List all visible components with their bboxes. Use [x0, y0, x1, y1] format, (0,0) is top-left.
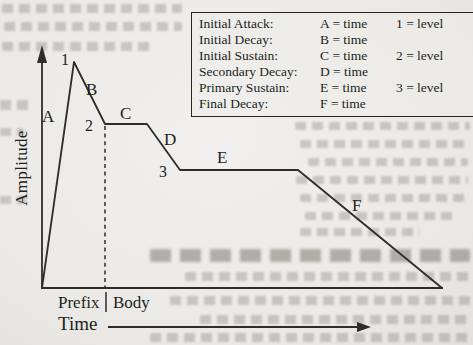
legend-stage-name: Primary Sustain: — [199, 80, 320, 96]
x-axis-label: Time — [58, 313, 97, 335]
final-decay-segment-label: F — [352, 196, 361, 216]
prefix-region-label: Prefix — [58, 293, 100, 313]
attack-segment-label: A — [42, 107, 54, 127]
scanned-book-page: 1 A B 2 C D 3 E F Amplitude Prefix Body … — [0, 0, 473, 345]
level-1-label: 1 — [61, 51, 69, 69]
initial-sustain-segment-label: C — [120, 104, 131, 124]
legend-stage-name: Initial Decay: — [199, 32, 320, 48]
legend-level-param: 3 = level — [396, 80, 469, 96]
legend-row: Final Decay: F = time — [199, 96, 469, 112]
legend-stage-name: Initial Attack: — [199, 16, 320, 32]
legend-stage-name: Final Decay: — [199, 96, 320, 112]
legend-time-param: B = time — [320, 32, 396, 48]
legend-row: Secondary Decay: D = time — [199, 64, 469, 80]
time-axis-arrowhead-icon — [357, 322, 371, 332]
legend-level-param: 1 = level — [396, 16, 469, 32]
legend-time-param: C = time — [320, 48, 396, 64]
level-2-label: 2 — [85, 117, 93, 135]
envelope-legend-box: Initial Attack: A = time 1 = level Initi… — [191, 12, 473, 117]
legend-stage-name: Initial Sustain: — [199, 48, 320, 64]
legend-row: Initial Sustain: C = time 2 = level — [199, 48, 469, 64]
legend-level-param: 2 = level — [396, 48, 469, 64]
initial-decay-segment-label: B — [86, 80, 97, 100]
legend-row: Initial Attack: A = time 1 = level — [199, 16, 469, 32]
primary-sustain-segment-label: E — [217, 148, 227, 168]
body-region-label: Body — [113, 293, 150, 313]
legend-level-param — [396, 64, 469, 80]
legend-time-param: E = time — [320, 80, 396, 96]
legend-stage-name: Secondary Decay: — [199, 64, 320, 80]
legend-time-param: A = time — [320, 16, 396, 32]
y-axis-arrowhead-icon — [37, 45, 47, 63]
legend-time-param: F = time — [320, 96, 396, 112]
y-axis-label: Amplitude — [12, 116, 32, 220]
secondary-decay-segment-label: D — [164, 130, 176, 150]
legend-level-param — [396, 96, 469, 112]
legend-row: Primary Sustain: E = time 3 = level — [199, 80, 469, 96]
legend-row: Initial Decay: B = time — [199, 32, 469, 48]
legend-level-param — [396, 32, 469, 48]
legend-time-param: D = time — [320, 64, 396, 80]
level-3-label: 3 — [159, 163, 167, 181]
